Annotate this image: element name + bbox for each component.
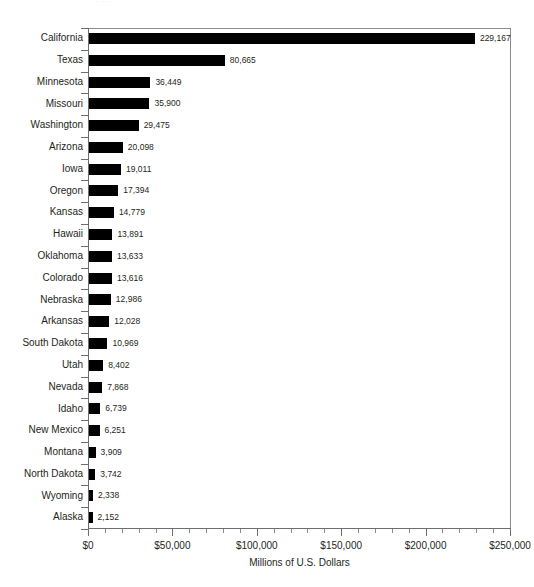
bar-value-label: 229,167 — [480, 31, 511, 45]
y-axis-tick — [81, 93, 88, 94]
category-label: Nebraska — [40, 293, 83, 307]
bar — [89, 469, 95, 480]
category-label: Arkansas — [41, 314, 83, 328]
bar-value-label: 2,338 — [98, 488, 119, 502]
bar-row: 29,475 — [88, 115, 511, 137]
category-label: Hawaii — [53, 227, 83, 241]
x-axis-minor-tick — [156, 529, 157, 533]
category-label: Washington — [31, 118, 83, 132]
category-label: California — [41, 31, 83, 45]
x-axis-minor-tick — [206, 529, 207, 533]
bar-row: 12,986 — [88, 289, 511, 311]
bar-row: 6,739 — [88, 398, 511, 420]
y-axis-tick — [81, 507, 88, 508]
bar-rows: 229,16780,66536,44935,90029,47520,09819,… — [88, 28, 511, 529]
category-label: Montana — [44, 445, 83, 459]
bar-value-label: 12,028 — [114, 314, 140, 328]
bar — [89, 33, 475, 44]
bar-value-label: 80,665 — [230, 53, 256, 67]
bar — [89, 490, 93, 501]
category-label: Oklahoma — [37, 249, 83, 263]
x-axis-tick-label: $50,000 — [154, 539, 190, 553]
x-axis-major-tick — [257, 529, 258, 536]
y-axis-tick — [81, 377, 88, 378]
y-axis-tick — [81, 137, 88, 138]
category-label: Wyoming — [41, 489, 83, 503]
y-axis-tick — [81, 72, 88, 73]
bar-row: 36,449 — [88, 72, 511, 94]
y-axis-tick — [81, 333, 88, 334]
bar — [89, 229, 112, 240]
bar — [89, 98, 149, 109]
chart-title-remnant: · · · — [96, 0, 112, 6]
category-label: Iowa — [62, 162, 83, 176]
bar-value-label: 13,633 — [117, 249, 143, 263]
bar-value-label: 7,868 — [107, 380, 128, 394]
x-axis-major-tick — [510, 529, 511, 536]
bar-row: 12,028 — [88, 311, 511, 333]
y-axis-tick — [81, 442, 88, 443]
bar-row: 10,969 — [88, 333, 511, 355]
category-label: North Dakota — [24, 467, 83, 481]
y-axis-tick — [81, 311, 88, 312]
bar — [89, 273, 112, 284]
x-axis-tick-label: $250,000 — [489, 539, 531, 553]
category-label: Arizona — [49, 140, 83, 154]
category-label: Oregon — [50, 184, 83, 198]
category-label: Alaska — [53, 510, 83, 524]
bar-chart: · · · 229,16780,66536,44935,90029,47520,… — [0, 0, 534, 587]
bar-value-label: 2,152 — [98, 510, 119, 524]
bar-row: 2,338 — [88, 485, 511, 507]
bar-value-label: 3,909 — [101, 445, 122, 459]
bar-value-label: 12,986 — [116, 292, 142, 306]
y-axis-tick — [81, 246, 88, 247]
bar-value-label: 36,449 — [155, 75, 181, 89]
category-label: New Mexico — [29, 423, 83, 437]
bar-value-label: 10,969 — [112, 336, 138, 350]
category-label: Idaho — [58, 402, 83, 416]
category-label: Nevada — [49, 380, 83, 394]
y-axis-tick — [81, 289, 88, 290]
y-axis-tick — [81, 398, 88, 399]
category-label: South Dakota — [22, 336, 83, 350]
x-axis-major-tick — [88, 529, 89, 536]
bar-row: 19,011 — [88, 159, 511, 181]
x-axis-minor-tick — [476, 529, 477, 533]
bar — [89, 360, 103, 371]
bar-value-label: 8,402 — [108, 358, 129, 372]
bar — [89, 294, 111, 305]
bar-row: 6,251 — [88, 420, 511, 442]
x-axis-tick-label: $100,000 — [236, 539, 278, 553]
bar-value-label: 13,891 — [117, 227, 143, 241]
x-axis-major-tick — [426, 529, 427, 536]
y-axis-tick — [81, 28, 88, 29]
category-label: Colorado — [42, 271, 83, 285]
bar-row: 20,098 — [88, 137, 511, 159]
bar-row: 14,779 — [88, 202, 511, 224]
bar — [89, 403, 100, 414]
bar — [89, 425, 100, 436]
x-axis-minor-tick — [189, 529, 190, 533]
x-axis-minor-tick — [442, 529, 443, 533]
x-axis-minor-tick — [307, 529, 308, 533]
y-axis-tick — [81, 355, 88, 356]
bar — [89, 512, 93, 523]
y-axis-tick — [81, 485, 88, 486]
x-axis-minor-tick — [375, 529, 376, 533]
bar-row: 80,665 — [88, 50, 511, 72]
bar-row: 13,633 — [88, 246, 511, 268]
x-axis-minor-tick — [291, 529, 292, 533]
bar-value-label: 17,394 — [123, 183, 149, 197]
x-axis-minor-tick — [122, 529, 123, 533]
bar-row: 8,402 — [88, 355, 511, 377]
bar — [89, 120, 139, 131]
x-axis-minor-tick — [324, 529, 325, 533]
bar — [89, 142, 123, 153]
bar — [89, 164, 121, 175]
bar — [89, 77, 150, 88]
y-axis-tick — [81, 224, 88, 225]
y-axis-tick — [81, 202, 88, 203]
x-axis-title: Millions of U.S. Dollars — [88, 556, 511, 570]
x-axis-tick-label: $200,000 — [405, 539, 447, 553]
bar-row: 2,152 — [88, 507, 511, 529]
